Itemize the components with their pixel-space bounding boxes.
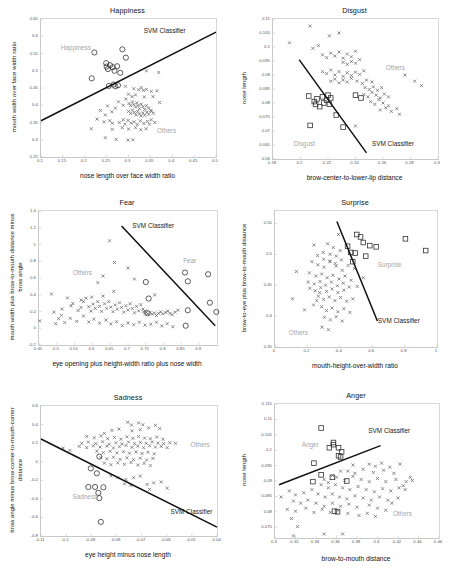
scatter-canvas (41, 19, 216, 157)
x-tick-label: 0.3 (125, 158, 131, 163)
data-point-others (134, 113, 137, 116)
data-point-others (68, 449, 71, 452)
data-point-others (325, 56, 328, 59)
data-point-others (339, 249, 342, 252)
y-tick-label: 0.1 (254, 447, 272, 452)
data-point-others (350, 279, 353, 282)
data-point-others (130, 424, 133, 427)
data-point-others (294, 493, 297, 496)
annotation-others: Others (157, 127, 176, 134)
y-tick-label: 0.075 (252, 114, 270, 119)
data-point-class (403, 237, 408, 242)
data-point-others (354, 124, 357, 127)
data-point-class (312, 461, 317, 466)
data-point-others (322, 251, 325, 254)
data-point-others (85, 446, 88, 449)
data-point-others (99, 446, 102, 449)
data-point-others (122, 311, 125, 314)
data-point-others (136, 463, 139, 466)
data-point-others (121, 324, 124, 327)
data-point-others (308, 271, 311, 274)
annotation-svm-classifier: SVM Classifier (372, 140, 414, 147)
data-point-others (312, 511, 315, 514)
data-point-others (98, 322, 101, 325)
data-point-others (304, 507, 307, 510)
data-point-others (404, 488, 407, 491)
data-point-others (109, 322, 112, 325)
data-point-others (368, 463, 371, 466)
data-point-others (127, 308, 130, 311)
data-point-others (147, 426, 150, 429)
data-point-others (102, 295, 105, 298)
annotation-others: Others (73, 269, 92, 276)
data-point-others (321, 70, 324, 73)
data-point-others (142, 122, 145, 125)
data-point-others (136, 110, 139, 113)
data-point-others (350, 74, 353, 77)
data-point-others (342, 61, 345, 64)
data-point-others (374, 515, 377, 518)
chart-panel-disgust: DisgustOthersDisgustSVM Classifier0.180.… (230, 0, 449, 190)
data-point-others (331, 274, 334, 277)
data-point-others (368, 480, 371, 483)
data-point-class (101, 485, 106, 490)
annotation-others: Others (393, 510, 412, 517)
data-point-others (364, 86, 367, 89)
scatter-canvas (41, 406, 217, 536)
data-point-others (346, 63, 349, 66)
data-point-others (105, 445, 108, 448)
data-point-class (183, 323, 188, 328)
data-point-others (310, 260, 313, 263)
annotation-sadness: Sadness (72, 493, 97, 500)
data-point-others (122, 104, 125, 107)
data-point-others (173, 311, 176, 314)
data-point-others (353, 494, 356, 497)
data-point-others (78, 445, 81, 448)
data-point-others (145, 459, 148, 462)
data-point-others (126, 421, 129, 424)
data-point-others (366, 512, 369, 515)
data-point-others (341, 269, 344, 272)
data-point-others (152, 112, 155, 115)
data-point-others (387, 104, 390, 107)
data-point-others (90, 127, 93, 130)
data-point-others (80, 306, 83, 309)
scatter-canvas (275, 211, 437, 347)
data-point-others (360, 478, 363, 481)
data-point-others (146, 451, 149, 454)
data-point-others (132, 476, 135, 479)
data-point-others (120, 442, 123, 445)
x-tick-label: 0.15 (58, 158, 66, 163)
data-point-others (375, 94, 378, 97)
data-point-others (50, 293, 53, 296)
data-point-others (99, 109, 102, 112)
data-point-others (149, 323, 152, 326)
data-point-others (115, 138, 118, 141)
data-point-others (96, 281, 99, 284)
scatter-canvas (39, 211, 217, 345)
data-point-others (342, 307, 345, 310)
chart-title: Surprise (274, 198, 436, 207)
data-point-others (372, 85, 375, 88)
data-point-others (387, 95, 390, 98)
data-point-others (332, 246, 335, 249)
chart-panel-surprise: SurpriseSurpriseOthersSVM Classifier00.2… (230, 190, 449, 385)
data-point-others (145, 69, 148, 72)
data-point-others (109, 463, 112, 466)
data-point-class (185, 308, 190, 313)
data-point-others (334, 483, 337, 486)
data-point-others (322, 298, 325, 301)
data-point-others (149, 437, 152, 440)
chart-title: Disgust (272, 6, 437, 15)
data-point-others (362, 468, 365, 471)
data-point-others (122, 450, 125, 453)
data-point-others (139, 303, 142, 306)
data-point-others (317, 492, 320, 495)
data-point-others (376, 477, 379, 480)
data-point-others (320, 273, 323, 276)
data-point-others (162, 442, 165, 445)
x-tick-label: 0.35 (145, 158, 153, 163)
plot-area: OthersSadnessSVM Classifier (40, 405, 218, 537)
annotation-others: Others (191, 441, 210, 448)
data-point-others (338, 51, 341, 54)
